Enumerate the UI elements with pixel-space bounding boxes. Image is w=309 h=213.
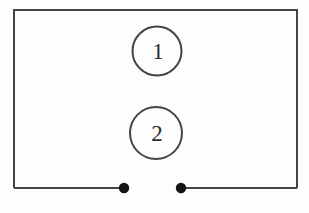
circuit-diagram: 1 2 [0, 0, 309, 213]
terminal-dot-right [176, 183, 186, 193]
component-2-label: 2 [151, 121, 163, 146]
component-1-label: 1 [152, 39, 164, 64]
wire-frame [14, 10, 297, 188]
circuit-diagram-svg: 1 2 [0, 0, 309, 213]
terminal-dot-left [119, 183, 129, 193]
